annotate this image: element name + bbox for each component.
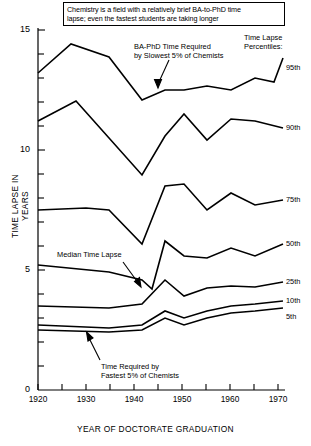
series-line-50th bbox=[38, 241, 283, 289]
x-tick-1920: 1920 bbox=[23, 394, 53, 404]
y-axis-ticks bbox=[38, 30, 45, 366]
annotation-slowest-line1: BA-PhD Time Required bbox=[134, 42, 211, 51]
annotation-fastest-line1: Time Required by bbox=[101, 362, 159, 371]
series-line-10th bbox=[38, 301, 283, 328]
y-tick-10: 10 bbox=[10, 144, 30, 154]
legend-label-25th: 25th bbox=[286, 277, 300, 286]
x-tick-1970: 1970 bbox=[263, 394, 293, 404]
series-line-90th bbox=[38, 101, 283, 175]
annotation-fastest-line2: Fastest 5% of Chemists bbox=[101, 371, 179, 380]
series-line-75th bbox=[38, 184, 283, 244]
y-tick-15: 15 bbox=[10, 24, 30, 34]
legend-label-5th: 5th bbox=[286, 312, 296, 321]
annotation-median: Median Time Lapse bbox=[57, 250, 122, 259]
annotation-leaders bbox=[87, 60, 170, 360]
y-tick-5: 5 bbox=[10, 264, 30, 274]
legend-heading-line1: Time Lapse bbox=[244, 33, 282, 42]
series-line-25th bbox=[38, 280, 283, 308]
series-line-5th bbox=[38, 308, 283, 332]
annotation-slowest-line2: by Slowest 5% of Chemists bbox=[134, 51, 224, 60]
x-tick-1940: 1940 bbox=[119, 394, 149, 404]
x-tick-1960: 1960 bbox=[215, 394, 245, 404]
y-axis-label: TIME LAPSE IN YEARS bbox=[10, 158, 30, 254]
legend-label-50th: 50th bbox=[286, 239, 300, 248]
y-tick-0: 0 bbox=[10, 384, 30, 394]
x-tick-1930: 1930 bbox=[71, 394, 101, 404]
legend-label-75th: 75th bbox=[286, 195, 300, 204]
legend-label-90th: 90th bbox=[286, 123, 300, 132]
legend-heading-line2: Percentiles: bbox=[244, 42, 283, 51]
chart-figure: Chemistry is a field with a relatively b… bbox=[0, 0, 311, 446]
x-tick-1950: 1950 bbox=[167, 394, 197, 404]
legend-label-95th: 95th bbox=[286, 63, 300, 72]
x-axis-ticks bbox=[38, 384, 278, 390]
legend-label-10th: 10th bbox=[286, 296, 300, 305]
x-axis-label: YEAR OF DOCTORATE GRADUATION bbox=[0, 424, 311, 434]
